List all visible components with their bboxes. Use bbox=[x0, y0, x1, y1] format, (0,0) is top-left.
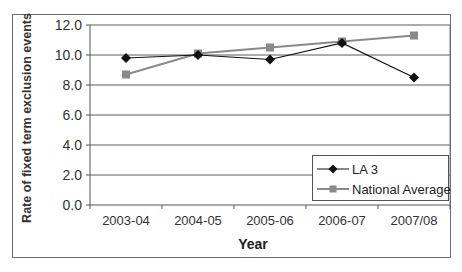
y-tick-label: 0.0 bbox=[63, 197, 83, 213]
x-tick-label: 2003-04 bbox=[102, 213, 150, 228]
legend-label: LA 3 bbox=[352, 162, 378, 177]
x-tick-label: 2004-05 bbox=[174, 213, 222, 228]
line-chart: 0.02.04.06.08.010.012.02003-042004-05200… bbox=[0, 0, 462, 272]
legend-item-la3: LA 3 bbox=[313, 159, 378, 179]
x-tick-label: 2005-06 bbox=[246, 213, 294, 228]
legend: LA 3 National Average bbox=[312, 155, 449, 201]
x-axis-label: Year bbox=[238, 236, 268, 252]
y-axis-label: Rate of fixed term exclusion events bbox=[20, 13, 34, 223]
y-tick-label: 6.0 bbox=[63, 107, 83, 123]
y-tick-label: 8.0 bbox=[63, 77, 83, 93]
y-tick-label: 4.0 bbox=[63, 137, 83, 153]
diamond-marker-icon bbox=[409, 73, 419, 83]
square-marker-icon bbox=[317, 183, 349, 195]
y-tick-label: 12.0 bbox=[55, 17, 82, 33]
y-tick-label: 10.0 bbox=[55, 47, 82, 63]
square-marker-icon bbox=[122, 71, 130, 79]
x-tick-label: 2007/08 bbox=[391, 213, 438, 228]
x-tick-label: 2006-07 bbox=[318, 213, 366, 228]
diamond-marker-icon bbox=[317, 163, 349, 175]
legend-item-national-average: National Average bbox=[313, 179, 451, 199]
square-marker-icon bbox=[410, 32, 418, 40]
diamond-marker-icon bbox=[265, 55, 275, 65]
y-tick-label: 2.0 bbox=[63, 167, 83, 183]
square-marker-icon bbox=[266, 44, 274, 52]
legend-label: National Average bbox=[352, 182, 451, 197]
